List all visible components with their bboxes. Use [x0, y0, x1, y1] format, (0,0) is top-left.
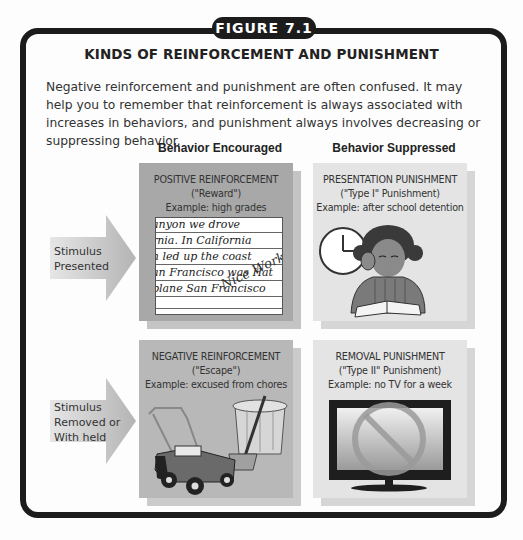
cell-example: Example: no TV for a week: [313, 378, 467, 392]
tv-with-no-symbol-image: [313, 396, 467, 496]
cell-alias: ("Type II" Punishment): [313, 364, 467, 378]
cell-name: POSITIVE REINFORCEMENT: [139, 173, 293, 187]
row-label-presented: Stimulus Presented: [54, 244, 109, 274]
cell-caption: PRESENTATION PUNISHMENT ("Type I" Punish…: [313, 173, 467, 215]
cell-example: Example: high grades: [139, 201, 293, 215]
cell-negative-reinforcement: NEGATIVE REINFORCEMENT ("Escape") Exampl…: [139, 340, 293, 498]
cell-alias: ("Reward"): [139, 187, 293, 201]
cell-caption: REMOVAL PUNISHMENT ("Type II" Punishment…: [313, 350, 467, 392]
lawnmower-and-trashcan-image: [139, 390, 293, 500]
cell-caption: POSITIVE REINFORCEMENT ("Reward") Exampl…: [139, 173, 293, 215]
cell-positive-reinforcement: POSITIVE REINFORCEMENT ("Reward") Exampl…: [139, 163, 293, 321]
cell-presentation-punishment: PRESENTATION PUNISHMENT ("Type I" Punish…: [313, 163, 467, 321]
cell-caption: NEGATIVE REINFORCEMENT ("Escape") Exampl…: [139, 350, 293, 392]
row-label-line: Removed or: [54, 415, 120, 430]
paper-text-line: anyon we drove: [155, 218, 240, 231]
paper-text-line: rnia. In California: [155, 234, 251, 247]
cell-alias: ("Type I" Punishment): [313, 187, 467, 201]
column-header-suppressed: Behavior Suppressed: [313, 141, 475, 155]
figure-title: KINDS OF REINFORCEMENT AND PUNISHMENT: [0, 46, 523, 62]
cell-name: PRESENTATION PUNISHMENT: [313, 173, 467, 187]
intro-paragraph: Negative reinforcement and punishment ar…: [46, 78, 486, 150]
girl-reading-with-clock-image: [313, 213, 467, 323]
row-label-line: With held: [54, 430, 120, 445]
cell-alias: ("Escape"): [139, 364, 293, 378]
paper-text-line: plane San Francisco: [155, 282, 266, 295]
paper-text-line: h led up the coast: [155, 250, 252, 263]
row-label-line: Stimulus: [54, 244, 109, 259]
figure-tab: FIGURE 7.1: [212, 17, 316, 39]
row-label-line: Presented: [54, 259, 109, 274]
column-header-encouraged: Behavior Encouraged: [139, 141, 301, 155]
cell-name: NEGATIVE REINFORCEMENT: [139, 350, 293, 364]
row-label-line: Stimulus: [54, 400, 120, 415]
cell-removal-punishment: REMOVAL PUNISHMENT ("Type II" Punishment…: [313, 340, 467, 498]
handwritten-paper-image: anyon we drove rnia. In California h led…: [155, 217, 283, 315]
row-label-removed: Stimulus Removed or With held: [54, 400, 120, 445]
cell-name: REMOVAL PUNISHMENT: [313, 350, 467, 364]
